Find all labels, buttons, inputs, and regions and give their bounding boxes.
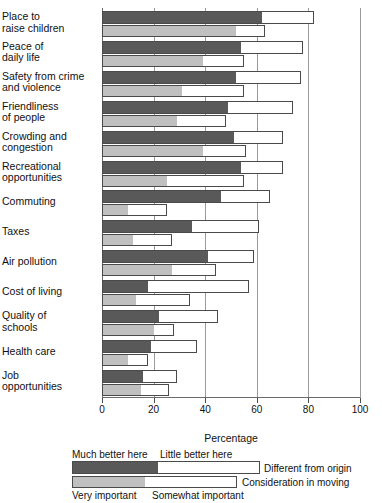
bar-different-from-origin	[102, 131, 283, 144]
bar-different-from-origin	[102, 161, 283, 174]
bar-segment-very-important	[103, 116, 177, 126]
category-label: Safety from crimeand violence	[2, 71, 98, 94]
bar-segment-much-better-here	[103, 311, 159, 322]
bar-row	[102, 340, 360, 367]
legend-label-consideration-in-moving: Consideration in moving	[242, 477, 349, 488]
bar-different-from-origin	[102, 220, 259, 233]
x-tick-label-60: 60	[237, 404, 277, 415]
category-label: Quality ofschools	[2, 310, 98, 333]
category-label-line: opportunities	[2, 172, 98, 184]
bar-consideration-in-moving	[102, 234, 172, 246]
category-label-line: schools	[2, 322, 98, 334]
bar-row	[102, 310, 360, 337]
bar-row	[102, 370, 360, 397]
x-tick-label-20: 20	[134, 404, 174, 415]
bar-segment-much-better-here	[103, 281, 148, 292]
bar-segment-much-better-here	[103, 132, 234, 143]
bar-segment-much-better-here	[103, 251, 208, 262]
x-axis-line	[102, 397, 360, 398]
category-label: Recreationalopportunities	[2, 161, 98, 184]
category-label-line: Commuting	[2, 196, 98, 208]
x-tick-label-40: 40	[185, 404, 225, 415]
bar-segment-very-important	[103, 265, 172, 275]
bar-consideration-in-moving	[102, 354, 148, 366]
category-label: Friendlinessof people	[2, 101, 98, 124]
bar-segment-much-better-here	[103, 162, 241, 173]
bar-different-from-origin	[102, 190, 270, 203]
bar-segment-much-better-here	[103, 72, 236, 83]
bar-consideration-in-moving	[102, 175, 244, 187]
category-label: Air pollution	[2, 256, 98, 268]
bar-consideration-in-moving	[102, 204, 167, 216]
category-label-line: Quality of	[2, 310, 98, 322]
category-label-line: Cost of living	[2, 286, 98, 298]
bar-segment-much-better-here	[103, 191, 221, 202]
category-label: Taxes	[2, 226, 98, 238]
bar-consideration-in-moving	[102, 264, 216, 276]
category-label-line: congestion	[2, 142, 98, 154]
x-tick-label-80: 80	[288, 404, 328, 415]
legend-label-much-better-here: Much better here	[72, 449, 148, 460]
bar-consideration-in-moving	[102, 85, 244, 97]
x-tick-label-100: 100	[340, 404, 380, 415]
bar-different-from-origin	[102, 11, 314, 24]
bar-row	[102, 220, 360, 247]
category-label-line: Air pollution	[2, 256, 98, 268]
bar-segment-very-important	[103, 86, 182, 96]
category-label-line: daily life	[2, 52, 98, 64]
x-tick-label-0: 0	[82, 404, 122, 415]
bar-segment-much-better-here	[103, 221, 192, 232]
bar-segment-much-better-here	[103, 102, 228, 113]
bar-different-from-origin	[102, 250, 254, 263]
bar-row	[102, 41, 360, 68]
category-label: Jobopportunities	[2, 370, 98, 393]
bar-row	[102, 71, 360, 98]
bar-row	[102, 131, 360, 158]
bar-segment-much-better-here	[103, 42, 241, 53]
bar-different-from-origin	[102, 340, 197, 353]
legend-swatch-different-from-origin	[72, 461, 260, 474]
bar-segment-very-important	[103, 26, 236, 36]
legend-swatch-consideration-in-moving	[72, 476, 237, 488]
bar-different-from-origin	[102, 310, 218, 323]
bar-segment-very-important	[103, 385, 141, 395]
bar-row	[102, 190, 360, 217]
bar-segment-much-better-here	[103, 341, 151, 352]
category-label: Crowding andcongestion	[2, 131, 98, 154]
bar-segment-very-important	[103, 205, 128, 215]
bar-row	[102, 11, 360, 38]
bar-segment-very-important	[103, 56, 203, 66]
bar-row	[102, 161, 360, 188]
bar-segment-very-important	[103, 235, 133, 245]
bar-consideration-in-moving	[102, 294, 190, 306]
bar-row	[102, 101, 360, 128]
category-label-line: and violence	[2, 82, 98, 94]
bar-consideration-in-moving	[102, 25, 265, 37]
chart-legend: Much better here Little better here Diff…	[0, 449, 382, 503]
bar-consideration-in-moving	[102, 55, 244, 67]
bar-consideration-in-moving	[102, 324, 174, 336]
bar-row	[102, 250, 360, 277]
x-tick-40	[205, 398, 206, 403]
category-label-line: opportunities	[2, 381, 98, 393]
x-tick-80	[308, 398, 309, 403]
category-label: Place toraise children	[2, 11, 98, 34]
category-label-line: Health care	[2, 346, 98, 358]
bar-segment-very-important	[103, 355, 128, 365]
x-axis-title: Percentage	[102, 432, 360, 444]
bar-consideration-in-moving	[102, 145, 246, 157]
chart-figure: Place toraise childrenPeace ofdaily life…	[0, 0, 382, 503]
category-label-line: Taxes	[2, 226, 98, 238]
bar-consideration-in-moving	[102, 115, 226, 127]
bar-different-from-origin	[102, 101, 293, 114]
category-label: Peace ofdaily life	[2, 41, 98, 64]
bar-segment-very-important	[103, 325, 154, 335]
legend-label-somewhat-important: Somewhat important	[152, 490, 244, 501]
gridline-100	[360, 8, 361, 398]
legend-swatch-much-better-fill	[73, 462, 158, 473]
category-label-line: Place to	[2, 11, 98, 23]
category-label: Health care	[2, 346, 98, 358]
category-label-line: of people	[2, 112, 98, 124]
bar-different-from-origin	[102, 71, 301, 84]
bar-different-from-origin	[102, 41, 303, 54]
